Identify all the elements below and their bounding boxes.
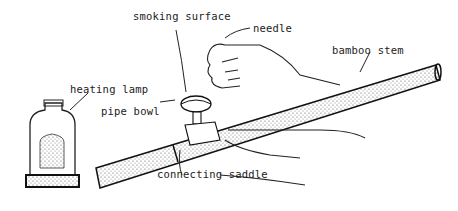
label-bamboo-stem: bamboo stem: [332, 44, 404, 56]
label-pipe-bowl: pipe bowl: [101, 105, 160, 117]
label-connecting-saddle: connecting saddle: [157, 168, 268, 180]
pipe-bowl-drawing: [181, 96, 220, 145]
diagram-canvas: smoking surface needle bamboo stem heati…: [0, 0, 458, 211]
label-needle: needle: [253, 22, 292, 34]
label-heating-lamp: heating lamp: [70, 83, 148, 95]
heating-lamp-drawing: [26, 100, 79, 187]
label-smoking-surface: smoking surface: [133, 10, 231, 22]
